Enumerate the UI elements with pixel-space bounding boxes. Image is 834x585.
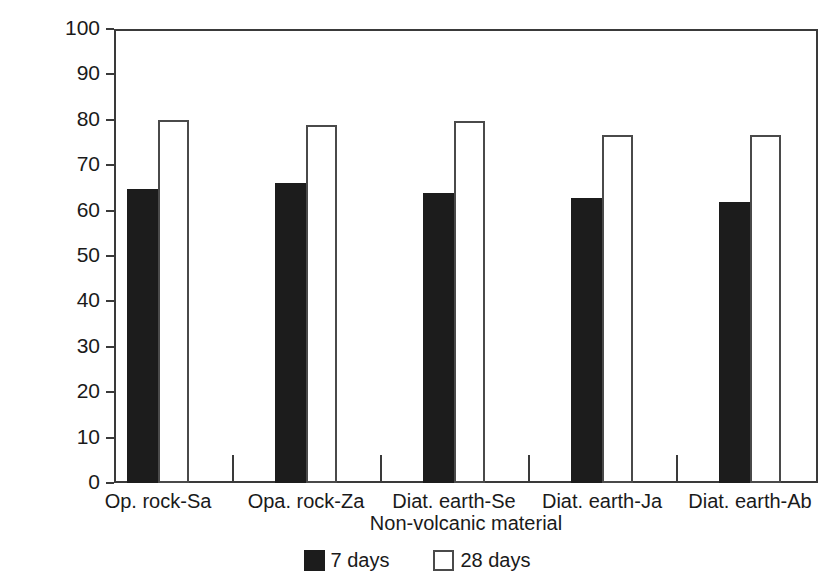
y-tick-label: 10 (77, 424, 100, 450)
legend-label: 7 days (331, 549, 390, 572)
x-category-label: Opa. rock-Za (232, 487, 380, 515)
x-axis-separator (380, 455, 382, 483)
x-category-label: Diat. earth-Ab (676, 487, 824, 515)
y-tick-label: 40 (77, 287, 100, 313)
y-tick-mark (106, 391, 114, 393)
x-axis-separator (528, 455, 530, 483)
x-axis-title: Non-volcanic material (114, 512, 818, 535)
legend-label: 28 days (460, 549, 530, 572)
y-tick-mark (106, 28, 114, 30)
x-category-label: Diat. earth-Ja (528, 487, 676, 515)
y-tick-mark (106, 437, 114, 439)
y-tick-mark (106, 119, 114, 121)
x-category-label: Diat. earth-Se (380, 487, 528, 515)
x-axis-separator (232, 455, 234, 483)
y-tick-label: 30 (77, 333, 100, 359)
legend-item: 7 days (304, 549, 390, 572)
y-tick-mark (106, 210, 114, 212)
y-tick-mark (106, 300, 114, 302)
legend-swatch-filled-black-square (304, 550, 325, 571)
legend-item: 28 days (433, 549, 530, 572)
y-tick-label: 20 (77, 378, 100, 404)
y-tick-label: 70 (77, 151, 100, 177)
legend-swatch-open-white-square (433, 550, 454, 571)
y-tick-mark (106, 73, 114, 75)
y-tick-mark (106, 164, 114, 166)
x-category-label: Op. rock-Sa (84, 487, 232, 515)
x-axis-separator (676, 455, 678, 483)
chart-legend: 7 days28 days (0, 549, 834, 572)
y-tick-label: 50 (77, 242, 100, 268)
y-tick-label: 90 (77, 60, 100, 86)
y-tick-label: 80 (77, 106, 100, 132)
y-tick-mark (106, 255, 114, 257)
y-tick-label: 100 (65, 15, 100, 41)
plot-area (114, 29, 818, 483)
y-tick-mark (106, 346, 114, 348)
y-tick-mark (106, 482, 114, 484)
bar-chart-figure: Lime fixed (%) 1009080706050403020100 Op… (0, 0, 834, 585)
y-tick-label: 60 (77, 197, 100, 223)
